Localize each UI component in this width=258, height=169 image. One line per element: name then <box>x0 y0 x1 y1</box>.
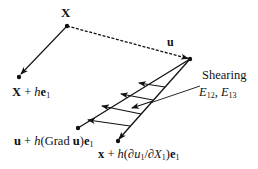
shearing-leader-line <box>150 86 200 103</box>
label-E12-E13: E12, E13 <box>198 85 237 100</box>
label-u-plus-grad-u: u + h(Grad u)e1 <box>14 134 93 149</box>
label-shearing: Shearing <box>202 68 247 82</box>
deformed-line-element <box>78 59 190 128</box>
label-x-plus-partial: x + h(∂u1/∂X1)e1 <box>98 147 179 162</box>
line-element-arrow <box>21 26 67 74</box>
point-u-plus-grad <box>76 126 80 130</box>
label-u: u <box>167 35 174 49</box>
stretch-line-element <box>119 59 190 139</box>
point-X-plus-he1 <box>17 75 21 79</box>
point-u-tip <box>188 57 192 61</box>
point-x-plus-partial <box>116 139 120 143</box>
shear-arrows <box>88 83 165 126</box>
shear-arrow <box>139 83 165 87</box>
label-X: X <box>61 5 71 20</box>
shear-arrow <box>88 120 130 126</box>
shear-diagram: X u X + he1 Shearing E12, E13 u + h(Grad… <box>0 0 258 169</box>
label-X-plus-he1: X + he1 <box>12 85 50 100</box>
point-X <box>65 24 69 28</box>
